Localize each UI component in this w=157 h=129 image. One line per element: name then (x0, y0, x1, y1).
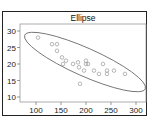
y-tick-label: 25 (7, 44, 16, 53)
data-point (123, 72, 127, 76)
data-point (61, 62, 65, 66)
data-point (76, 61, 80, 65)
scatter-chart: Ellipse 1015202530 100150200250300 (0, 0, 157, 129)
data-point (112, 69, 116, 73)
data-point (55, 42, 59, 46)
data-point (97, 72, 101, 76)
data-point (78, 82, 82, 86)
data-point (77, 66, 81, 70)
x-tick-label: 150 (54, 106, 68, 115)
data-point (60, 56, 64, 60)
y-tick-label: 15 (7, 77, 16, 86)
data-point (92, 69, 96, 73)
x-tick-label: 250 (104, 106, 118, 115)
x-tick-label: 100 (29, 106, 43, 115)
data-point (101, 62, 105, 66)
data-point (50, 42, 54, 46)
x-tick-label: 200 (79, 106, 93, 115)
y-axis: 1015202530 (7, 27, 20, 102)
y-tick-label: 20 (7, 60, 16, 69)
data-point (64, 59, 68, 63)
data-point (36, 36, 40, 40)
data-point (82, 69, 86, 73)
y-tick-label: 30 (7, 27, 16, 36)
y-tick-label: 10 (7, 93, 16, 102)
data-point (55, 49, 59, 53)
x-axis: 100150200250300 (29, 102, 143, 115)
chart-title: Ellipse (70, 13, 95, 23)
data-point (71, 62, 75, 66)
x-tick-label: 300 (129, 106, 143, 115)
